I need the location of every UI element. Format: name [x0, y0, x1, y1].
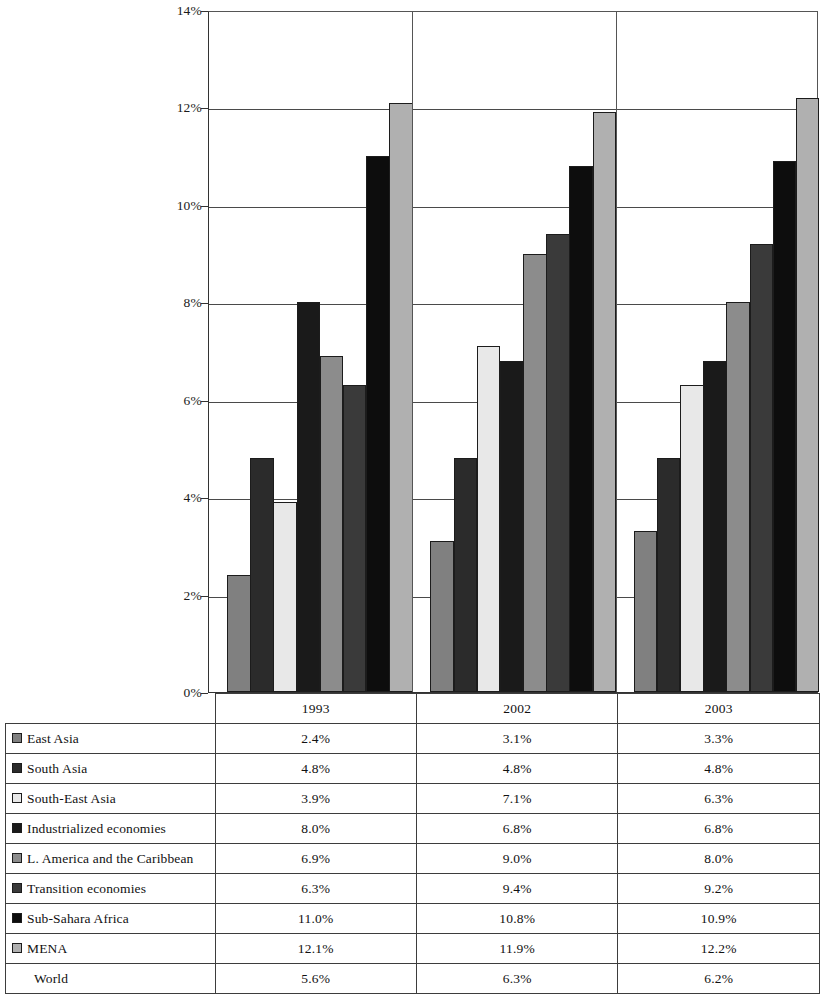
value-cell: 3.9%	[215, 784, 416, 814]
legend-label: East Asia	[27, 731, 79, 747]
plot-area	[208, 11, 818, 693]
y-axis-tick-label: 2%	[158, 589, 202, 603]
year-header-1993: 1993	[215, 694, 416, 724]
gridline	[209, 109, 817, 110]
legend-swatch-icon	[12, 943, 22, 953]
legend-item-transition-economies: Transition economies	[6, 874, 216, 904]
data-table: 199320022003 East Asia2.4%3.1%3.3%South …	[5, 693, 820, 994]
bar	[454, 458, 478, 692]
legend-label: World	[12, 971, 68, 987]
legend-label: South Asia	[27, 761, 87, 777]
value-cell: 9.2%	[618, 874, 820, 904]
value-cell: 6.3%	[618, 784, 820, 814]
bar	[773, 161, 797, 692]
y-axis-tick	[201, 303, 208, 304]
legend-swatch-icon	[12, 823, 22, 833]
bar	[703, 361, 727, 692]
value-cell: 5.6%	[215, 964, 416, 994]
y-axis-tick	[201, 108, 208, 109]
value-cell: 7.1%	[417, 784, 618, 814]
value-cell: 12.1%	[215, 934, 416, 964]
table-row: World5.6%6.3%6.2%	[6, 964, 820, 994]
bar	[593, 112, 617, 692]
table-row: East Asia2.4%3.1%3.3%	[6, 724, 820, 754]
y-axis-tick	[201, 206, 208, 207]
bar	[389, 103, 413, 692]
group-divider	[412, 12, 413, 692]
y-axis-tick	[201, 11, 208, 12]
legend-label: Industrialized economies	[27, 821, 166, 837]
value-cell: 12.2%	[618, 934, 820, 964]
value-cell: 6.8%	[618, 814, 820, 844]
bar	[320, 356, 344, 692]
y-axis-tick	[201, 498, 208, 499]
y-axis-tick-label: 6%	[158, 394, 202, 408]
legend-item-sub-sahara-africa: Sub-Sahara Africa	[6, 904, 216, 934]
legend-item-south-east-asia: South-East Asia	[6, 784, 216, 814]
bar	[366, 156, 390, 692]
value-cell: 6.3%	[417, 964, 618, 994]
y-axis-tick	[201, 596, 208, 597]
y-axis-tick	[201, 401, 208, 402]
table-header-row: 199320022003	[6, 694, 820, 724]
bar	[546, 234, 570, 692]
value-cell: 8.0%	[618, 844, 820, 874]
value-cell: 4.8%	[215, 754, 416, 784]
year-header-2003: 2003	[618, 694, 820, 724]
bar	[796, 98, 820, 692]
legend-label: Transition economies	[27, 881, 146, 897]
legend-item-east-asia: East Asia	[6, 724, 216, 754]
year-header-2002: 2002	[417, 694, 618, 724]
value-cell: 6.2%	[618, 964, 820, 994]
value-cell: 3.1%	[417, 724, 618, 754]
legend-swatch-icon	[12, 853, 22, 863]
y-axis-tick-label: 12%	[158, 101, 202, 115]
legend-swatch-icon	[12, 733, 22, 743]
y-axis-tick-label: 4%	[158, 491, 202, 505]
table-row: Sub-Sahara Africa11.0%10.8%10.9%	[6, 904, 820, 934]
legend-item-industrialized-economies: Industrialized economies	[6, 814, 216, 844]
legend-swatch-icon	[12, 763, 22, 773]
value-cell: 4.8%	[618, 754, 820, 784]
legend-item-south-asia: South Asia	[6, 754, 216, 784]
bar	[680, 385, 704, 692]
bar	[634, 531, 658, 692]
legend-label: L. America and the Caribbean	[27, 851, 194, 867]
bar	[297, 302, 321, 692]
value-cell: 6.8%	[417, 814, 618, 844]
bar	[750, 244, 774, 692]
value-cell: 10.8%	[417, 904, 618, 934]
bar	[273, 502, 297, 692]
table-row: South-East Asia3.9%7.1%6.3%	[6, 784, 820, 814]
bar	[250, 458, 274, 692]
table-body: East Asia2.4%3.1%3.3%South Asia4.8%4.8%4…	[6, 724, 820, 994]
bar	[343, 385, 367, 692]
legend-swatch-icon	[12, 883, 22, 893]
value-cell: 8.0%	[215, 814, 416, 844]
bar	[227, 575, 251, 692]
value-cell: 11.9%	[417, 934, 618, 964]
header-spacer	[6, 694, 216, 724]
table-row: Industrialized economies8.0%6.8%6.8%	[6, 814, 820, 844]
bar	[569, 166, 593, 692]
bar-chart: 0%2%4%6%8%10%12%14%	[0, 0, 831, 694]
table-row: L. America and the Caribbean6.9%9.0%8.0%	[6, 844, 820, 874]
legend-swatch-icon	[12, 793, 22, 803]
group-divider	[616, 12, 617, 692]
bar	[726, 302, 750, 692]
y-axis-tick-label: 10%	[158, 199, 202, 213]
legend-label: MENA	[27, 941, 67, 957]
value-cell: 9.4%	[417, 874, 618, 904]
value-cell: 3.3%	[618, 724, 820, 754]
bar	[657, 458, 681, 692]
table-row: South Asia4.8%4.8%4.8%	[6, 754, 820, 784]
gridline	[209, 207, 817, 208]
legend-label: Sub-Sahara Africa	[27, 911, 129, 927]
table-row: MENA12.1%11.9%12.2%	[6, 934, 820, 964]
bar	[500, 361, 524, 692]
legend-item-l-america-and-the-caribbean: L. America and the Caribbean	[6, 844, 216, 874]
y-axis-tick-label: 14%	[158, 4, 202, 18]
bar	[477, 346, 501, 692]
bar	[523, 254, 547, 692]
